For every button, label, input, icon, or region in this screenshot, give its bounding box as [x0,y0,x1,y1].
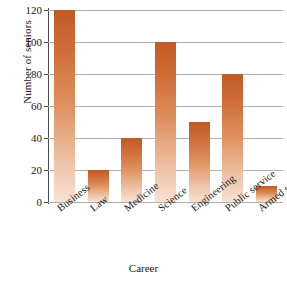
bar [155,42,176,202]
y-axis-tick-label: 100 [26,36,43,48]
y-axis-tick-label: 40 [31,132,42,144]
tick-mark [44,42,48,43]
plot-area: 020406080100120 [48,10,283,202]
tick-mark [44,138,48,139]
tick-mark [44,74,48,75]
bar [54,10,75,202]
y-axis-tick-label: 0 [37,196,43,208]
tick-mark [44,202,48,203]
y-axis-tick-label: 80 [31,68,42,80]
bar-chart: Number of seniors 020406080100120 Career… [0,0,287,283]
y-axis-tick-label: 60 [31,100,42,112]
tick-mark [44,170,48,171]
y-axis-tick-label: 20 [31,164,42,176]
tick-mark [44,106,48,107]
gridline [48,10,283,11]
y-axis-tick-label: 120 [26,4,43,16]
tick-mark [44,10,48,11]
x-axis-title: Career [0,262,287,274]
